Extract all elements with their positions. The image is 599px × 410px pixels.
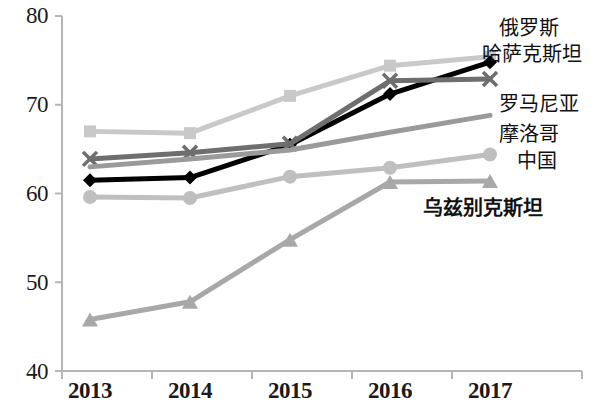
ytick-label-50: 50	[2, 270, 48, 296]
data-point-marker	[184, 127, 196, 139]
data-point-marker	[183, 191, 197, 205]
series-label-china: 中国	[517, 145, 557, 174]
series-label-russia: 俄罗斯	[499, 12, 559, 41]
data-point-marker	[283, 170, 297, 184]
data-point-marker	[384, 60, 396, 72]
data-point-marker	[383, 161, 397, 175]
ytick-label-40: 40	[2, 359, 48, 385]
xtick-label-2014: 2014	[150, 378, 230, 404]
data-point-marker	[83, 173, 97, 187]
ytick-label-80: 80	[2, 3, 48, 29]
series-label-uzbekistan: 乌兹别克斯坦	[423, 192, 543, 221]
series-label-kazakhstan: 哈萨克斯坦	[482, 38, 582, 67]
data-point-marker	[183, 171, 197, 185]
ytick-label-70: 70	[2, 92, 48, 118]
data-point-marker	[83, 190, 97, 204]
series-layer	[82, 51, 498, 327]
data-point-marker	[483, 147, 497, 161]
line-chart: 80 70 60 50 40 2013 2014 2015 2016 2017 …	[0, 0, 599, 410]
series-russia	[83, 55, 497, 187]
ytick-label-60: 60	[2, 181, 48, 207]
xtick-label-2016: 2016	[350, 378, 430, 404]
data-point-marker	[84, 125, 96, 137]
data-point-marker	[284, 90, 296, 102]
xtick-label-2017: 2017	[450, 378, 530, 404]
xtick-label-2015: 2015	[250, 378, 330, 404]
series-label-morocco: 摩洛哥	[499, 118, 559, 147]
xtick-label-2013: 2013	[50, 378, 130, 404]
series-label-romania: 罗马尼亚	[499, 88, 579, 117]
